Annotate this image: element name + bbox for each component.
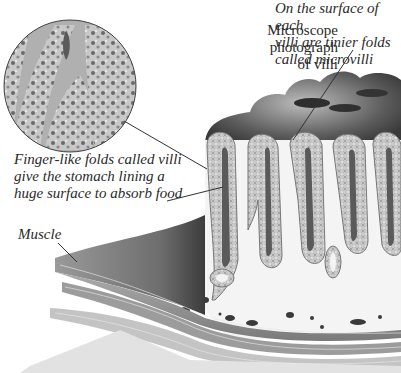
label-line: villi are tinier folds bbox=[275, 34, 401, 51]
label-line: called microvilli bbox=[275, 51, 401, 68]
villi-block bbox=[180, 72, 401, 340]
microscope-photo bbox=[0, 20, 140, 155]
muscle-label: Muscle bbox=[18, 226, 61, 243]
label-line: give the stomach lining a bbox=[14, 168, 214, 185]
microvilli-label: On the surface of each villi are tinier … bbox=[275, 0, 401, 68]
villi-label: Finger-like folds called villi give the … bbox=[14, 151, 214, 202]
label-line: huge surface to absorb food bbox=[14, 185, 214, 202]
label-line: On the surface of each bbox=[275, 0, 401, 34]
label-line: Finger-like folds called villi bbox=[14, 151, 214, 168]
